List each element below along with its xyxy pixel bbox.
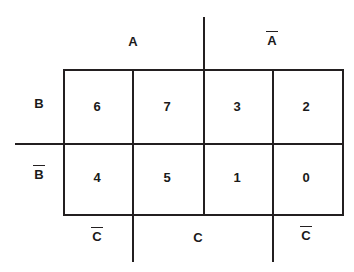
kmap-cell: 7 — [147, 100, 187, 113]
kmap-cell: 3 — [217, 100, 257, 113]
kmap-cell: 0 — [286, 171, 326, 184]
axis-label-a-not-text: A — [267, 33, 277, 47]
kmap-cell: 2 — [286, 100, 326, 113]
axis-label-c: C — [178, 231, 218, 244]
axis-label-c-not-left: C — [77, 229, 117, 243]
axis-label-b-not: B — [19, 167, 59, 181]
axis-label-a: A — [113, 35, 153, 48]
axis-label-c-not-left-text: C — [92, 229, 102, 243]
vertical-divider-c-cnot-right — [272, 69, 274, 262]
axis-label-a-not: A — [252, 33, 292, 47]
kmap-cell: 6 — [77, 100, 117, 113]
axis-label-b-text: B — [34, 96, 44, 111]
karnaugh-map-figure: A A B B C C C 6 7 3 2 4 5 1 0 — [0, 0, 354, 272]
axis-label-c-text: C — [193, 230, 203, 245]
axis-label-b-not-text: B — [34, 167, 44, 181]
kmap-cell: 1 — [217, 171, 257, 184]
axis-label-b: B — [19, 97, 59, 110]
axis-label-c-not-right-text: C — [301, 228, 311, 242]
axis-label-c-not-right: C — [286, 228, 326, 242]
kmap-cell: 4 — [77, 171, 117, 184]
horizontal-divider-b-bnot — [15, 143, 343, 145]
kmap-cell: 5 — [147, 171, 187, 184]
vertical-divider-cnot-c-left — [132, 69, 134, 262]
vertical-divider-a-anot — [203, 17, 205, 215]
axis-label-a-text: A — [128, 34, 138, 49]
